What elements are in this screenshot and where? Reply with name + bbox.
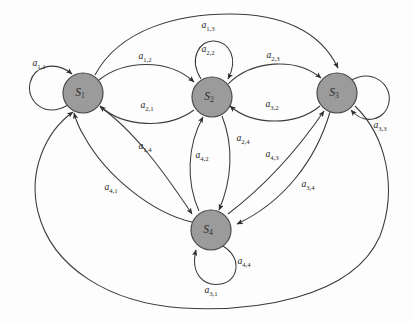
edge-a44-self-loop: [195, 246, 236, 284]
edge-label-a44: a4,4: [237, 255, 251, 267]
node-s4[interactable]: S4: [191, 210, 231, 250]
edge-a42: [190, 117, 203, 211]
edge-a24: [219, 116, 230, 210]
edge-a23: [228, 64, 321, 84]
node-s2-sublabel: 2: [210, 95, 214, 104]
node-s1[interactable]: S1: [63, 73, 103, 113]
edge-a34: [237, 112, 330, 224]
edge-a12: [99, 65, 194, 83]
node-s4-sublabel: 4: [209, 228, 213, 237]
edge-label-a33: a3,3: [373, 119, 387, 131]
node-s3-sublabel: 3: [335, 91, 339, 100]
edge-label-a11: a1,1: [32, 57, 45, 69]
edge-label-a31: a3,1: [204, 284, 217, 296]
node-s3[interactable]: S3: [317, 73, 357, 113]
node-s2[interactable]: S2: [192, 77, 232, 117]
edge-label-a12: a1,2: [138, 50, 151, 62]
edge-label-a14: a1,4: [138, 140, 152, 152]
edge-label-a42: a4,2: [195, 149, 208, 161]
edge-label-a32: a3,2: [265, 98, 278, 110]
edge-label-a21: a2,1: [140, 99, 153, 111]
node-s1-sublabel: 1: [81, 91, 85, 100]
edge-label-a34: a3,4: [301, 178, 315, 190]
edge-label-a24: a2,4: [236, 132, 250, 144]
edge-label-a43: a4,3: [265, 148, 279, 160]
edge-label-a22: a2,2: [201, 43, 214, 55]
state-transition-diagram: S1 S2 S3 S4 a1,1 a2,2: [0, 0, 414, 322]
edge-label-a23: a2,3: [266, 49, 280, 61]
edge-a41: [74, 113, 192, 222]
diagram-canvas: S1 S2 S3 S4 a1,1 a2,2: [0, 0, 414, 322]
edge-a31: [35, 106, 388, 309]
edge-label-a13: a1,3: [201, 19, 215, 31]
edge-label-a41: a4,1: [104, 181, 117, 193]
